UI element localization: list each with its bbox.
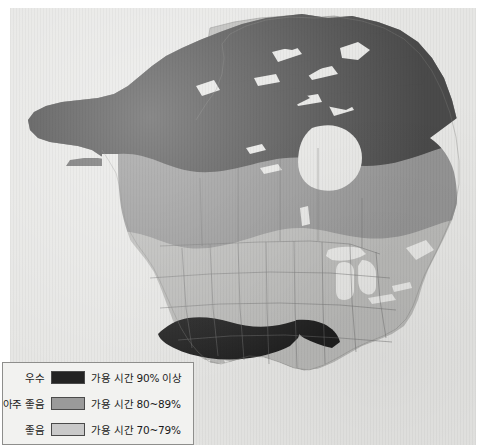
legend-grade-excellent: 우수 — [25, 370, 45, 385]
legend-description-very-good: 가용 시간 80~89% — [91, 396, 187, 411]
legend-swatch-good — [51, 423, 85, 436]
hudson-bay — [298, 125, 362, 191]
legend-description-excellent: 가용 시간 90% 이상 — [91, 370, 187, 385]
legend-description-good: 가용 시간 70~79% — [91, 422, 187, 437]
map-legend: 우수 가용 시간 90% 이상 아주 좋음 가용 시간 80~89% 좋음 가용… — [2, 362, 194, 445]
legend-swatch-very-good — [51, 397, 85, 410]
gulf-of-mexico — [206, 394, 476, 445]
legend-grade-very-good: 아주 좋음 — [3, 396, 45, 411]
legend-row-very-good: 아주 좋음 가용 시간 80~89% — [3, 391, 193, 415]
legend-row-good: 좋음 가용 시간 70~79% — [3, 417, 193, 441]
legend-swatch-excellent — [51, 371, 85, 384]
legend-grade-good: 좋음 — [25, 422, 45, 437]
legend-row-excellent: 우수 가용 시간 90% 이상 — [3, 366, 193, 390]
availability-map-figure: 우수 가용 시간 90% 이상 아주 좋음 가용 시간 80~89% 좋음 가용… — [0, 0, 486, 445]
